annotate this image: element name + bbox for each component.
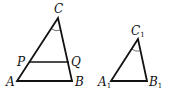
label-b: B	[74, 75, 84, 89]
label-b1: B1	[148, 75, 162, 90]
triangle-a1b1c1-outline	[111, 39, 147, 81]
label-c: C	[54, 2, 63, 16]
triangle-a1b1c1: C1 A1 B1	[97, 24, 162, 90]
geometry-figure: C P Q A B C1 A1 B1	[0, 0, 169, 99]
triangle-abc-outline	[17, 18, 72, 81]
angle-c-arc	[52, 29, 61, 31]
angle-c1-arc	[132, 49, 140, 51]
label-p: P	[16, 55, 26, 69]
label-q: Q	[71, 55, 81, 69]
label-a: A	[5, 75, 15, 89]
label-c1: C1	[131, 24, 145, 39]
triangle-abc: C P Q A B	[5, 2, 84, 89]
label-a1: A1	[97, 75, 111, 90]
